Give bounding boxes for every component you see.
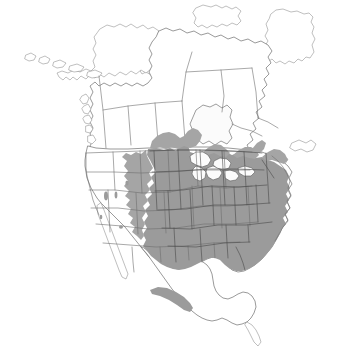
greenland-outline — [265, 9, 315, 64]
distribution-map-figure — [0, 0, 345, 355]
north-america-map — [0, 0, 345, 355]
